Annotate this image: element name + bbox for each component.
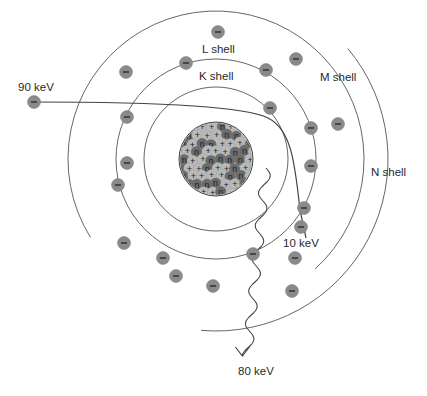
svg-text:n: n bbox=[224, 113, 229, 123]
n-shell-label: N shell bbox=[371, 167, 406, 179]
neutron bbox=[168, 138, 179, 149]
svg-text:n: n bbox=[171, 138, 176, 148]
proton bbox=[243, 121, 254, 132]
neutron bbox=[177, 188, 188, 199]
neutron bbox=[168, 186, 179, 197]
m-shell-electron bbox=[289, 252, 302, 265]
svg-text:+: + bbox=[175, 179, 180, 189]
l-shell-electron bbox=[305, 160, 318, 173]
svg-text:+: + bbox=[175, 129, 180, 139]
neutron bbox=[250, 180, 261, 191]
m-shell-electron bbox=[212, 26, 225, 39]
l-shell-electron bbox=[170, 270, 183, 283]
proton bbox=[172, 178, 183, 189]
l-shell-electron bbox=[121, 157, 134, 170]
svg-text:+: + bbox=[180, 122, 185, 132]
incident-energy-label: 90 keV bbox=[18, 82, 54, 94]
l-shell-electron bbox=[247, 248, 260, 261]
neutron bbox=[235, 186, 246, 197]
neutron bbox=[221, 113, 232, 124]
svg-text:n: n bbox=[171, 155, 176, 165]
svg-text:n: n bbox=[172, 187, 177, 197]
photon-energy-label: 80 keV bbox=[238, 366, 274, 378]
svg-text:n: n bbox=[196, 114, 201, 124]
m-shell-electron bbox=[207, 280, 220, 293]
svg-text:n: n bbox=[253, 180, 258, 190]
neutron bbox=[183, 113, 194, 124]
proton bbox=[172, 129, 183, 140]
svg-text:+: + bbox=[252, 131, 257, 141]
svg-text:n: n bbox=[172, 172, 177, 182]
proton bbox=[230, 113, 241, 124]
proton bbox=[173, 112, 184, 123]
l-shell-electron bbox=[180, 57, 193, 70]
svg-text:+: + bbox=[253, 163, 258, 173]
m-shell-electron bbox=[332, 118, 345, 131]
m-shell-label: M shell bbox=[320, 72, 356, 84]
x-ray-photon-wave bbox=[242, 168, 270, 355]
svg-text:+: + bbox=[246, 122, 251, 132]
exiting-energy-label: 10 keV bbox=[283, 238, 319, 250]
proton bbox=[177, 121, 188, 132]
neutron bbox=[193, 114, 204, 125]
k-shell-electron bbox=[264, 102, 277, 115]
l-shell-label: L shell bbox=[202, 44, 235, 56]
neutron bbox=[249, 115, 260, 126]
m-shell-electron bbox=[298, 202, 311, 215]
nucleus: +nnn+n+nnn++++n++++n+++nn++nn+nn+++n++n+… bbox=[168, 112, 261, 199]
svg-text:n: n bbox=[180, 188, 185, 198]
svg-text:+: + bbox=[214, 130, 219, 140]
svg-text:+: + bbox=[190, 188, 195, 198]
atom-diagram-svg: +nnn+n+nnn++++n++++n+++nn++nn+nn+++n++n+… bbox=[0, 0, 427, 396]
neutron bbox=[241, 115, 252, 126]
incident-electron-trajectory bbox=[34, 102, 306, 238]
svg-text:n: n bbox=[186, 114, 191, 124]
svg-text:n: n bbox=[224, 130, 229, 140]
k-shell-label: K shell bbox=[199, 71, 234, 83]
m-shell-electron bbox=[112, 179, 125, 192]
electron-path bbox=[34, 102, 306, 356]
l-shell-electron bbox=[260, 64, 273, 77]
svg-text:n: n bbox=[244, 115, 249, 125]
outer-shell-electron bbox=[295, 221, 308, 234]
proton bbox=[187, 187, 198, 198]
neutron bbox=[245, 187, 256, 198]
l-shell-electron bbox=[121, 111, 134, 124]
m-shell-electron bbox=[290, 53, 303, 66]
k-shell-electron bbox=[157, 252, 170, 265]
svg-text:+: + bbox=[176, 113, 181, 123]
atom-diagram: +nnn+n+nnn++++n++++n+++nn++nn+nn+++n++n+… bbox=[0, 0, 427, 396]
svg-text:n: n bbox=[249, 188, 254, 198]
neutron bbox=[168, 122, 179, 133]
l-shell-electron bbox=[305, 122, 318, 135]
svg-text:n: n bbox=[252, 115, 257, 125]
svg-text:n: n bbox=[242, 146, 247, 156]
svg-text:+: + bbox=[233, 113, 238, 123]
outer-shell-electron bbox=[286, 285, 299, 298]
svg-text:n: n bbox=[171, 122, 176, 132]
outer-shell-electron bbox=[120, 66, 133, 79]
neutron bbox=[168, 154, 179, 165]
proton bbox=[250, 130, 261, 141]
neutron bbox=[169, 171, 180, 182]
m-shell-electron bbox=[118, 237, 131, 250]
incident-electron bbox=[28, 96, 41, 109]
